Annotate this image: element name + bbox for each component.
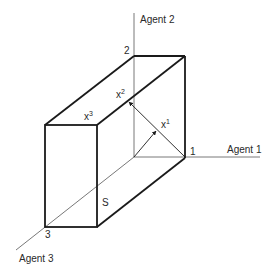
box-diagram: Agent 2 Agent 1 Agent 3 2 1 3 S x3 x2 x1: [0, 0, 273, 278]
bottom-right-slant-edge: [97, 158, 185, 227]
diagonal-x2-vector: [129, 102, 185, 157]
vertex-3-label: 3: [45, 229, 51, 240]
region-s-label: S: [102, 197, 109, 208]
x3-label: x3: [84, 110, 93, 122]
x1-vector: [134, 131, 156, 157]
agent3-axis: [16, 157, 134, 250]
agent2-label: Agent 2: [140, 14, 175, 25]
axes: [16, 13, 260, 250]
x1-label: x1: [161, 118, 170, 130]
vertex-2-label: 2: [124, 45, 130, 56]
top-right-slant-edge: [97, 56, 185, 125]
diagram-canvas: Agent 2 Agent 1 Agent 3 2 1 3 S x3 x2 x1: [0, 0, 273, 278]
allocation-vectors: [129, 102, 185, 157]
feasible-box: [45, 56, 185, 227]
vertex-1-label: 1: [190, 146, 196, 157]
agent1-label: Agent 1: [227, 144, 262, 155]
x2-label: x2: [116, 88, 125, 100]
front-face: [45, 125, 97, 227]
agent3-label: Agent 3: [19, 253, 54, 264]
